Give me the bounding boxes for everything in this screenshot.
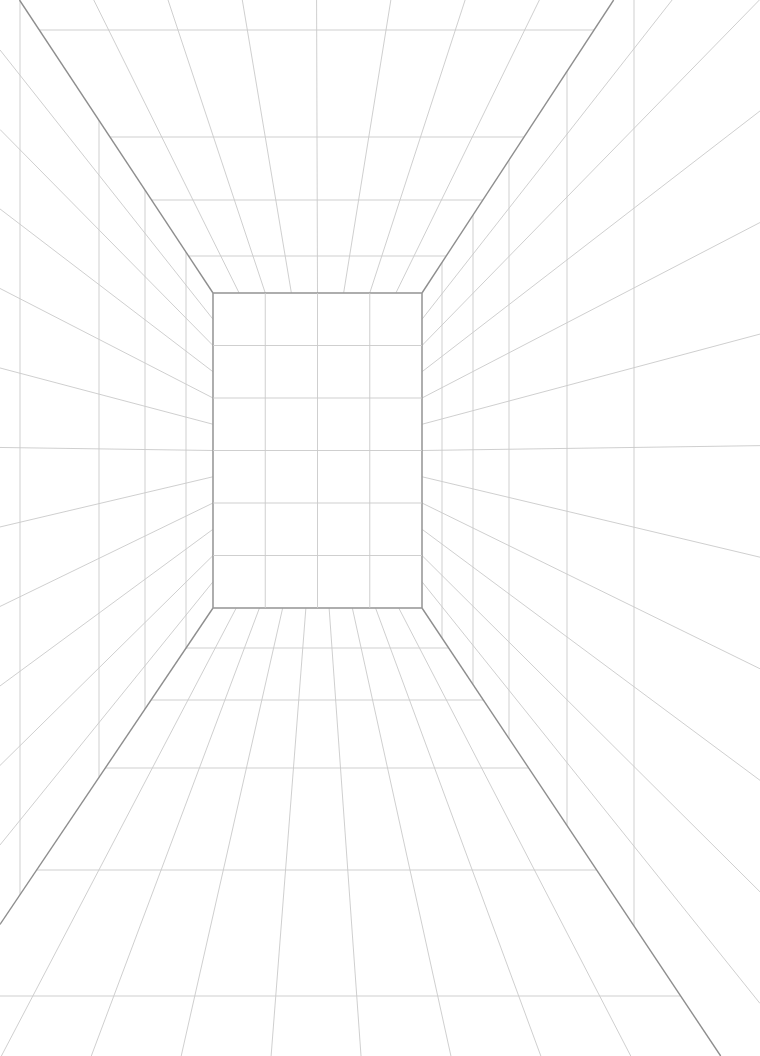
left-wall-ray <box>0 529 213 686</box>
ceiling-ray <box>242 0 291 293</box>
ceiling-ray <box>168 0 265 293</box>
floor-ray <box>91 608 259 1056</box>
room-corner-edge <box>422 608 721 1056</box>
left-wall-ray <box>0 477 213 527</box>
left-wall-ray <box>0 368 213 424</box>
left-wall-ray <box>0 50 213 319</box>
floor-ray <box>1 608 236 1056</box>
room-corner-edge <box>0 608 213 924</box>
floor-ray <box>271 608 306 1056</box>
floor-ray <box>376 608 541 1056</box>
room-edge-lines <box>0 0 721 1056</box>
left-wall-ray <box>0 556 213 766</box>
perspective-grid-drawing <box>0 0 760 1056</box>
left-wall-ray <box>0 129 213 345</box>
perspective-rays <box>0 0 760 1056</box>
ceiling-ray <box>317 0 318 293</box>
floor-ray <box>399 608 631 1056</box>
left-wall-ray <box>0 447 213 450</box>
depth-horizontal-lines <box>0 30 681 996</box>
room-corner-edge <box>20 0 213 293</box>
left-wall-ray <box>0 288 213 398</box>
left-wall-ray <box>0 209 213 372</box>
back-wall-grid <box>213 293 422 608</box>
floor-ray <box>181 608 282 1056</box>
right-wall-ray <box>422 0 672 319</box>
floor-ray <box>352 608 451 1056</box>
left-wall-ray <box>0 503 213 606</box>
floor-ray <box>329 608 361 1056</box>
